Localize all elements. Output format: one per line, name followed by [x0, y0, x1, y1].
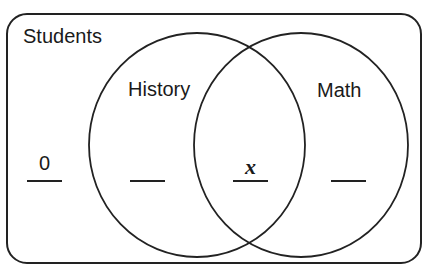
history-circle — [89, 33, 305, 257]
math-label: Math — [317, 80, 361, 100]
outside-blank — [27, 180, 62, 182]
math-circle — [194, 33, 408, 257]
universe-label: Students — [23, 26, 102, 46]
both-value: x — [233, 156, 268, 178]
outside-value: 0 — [27, 153, 62, 173]
math-only-blank — [331, 180, 366, 182]
both-blank — [233, 180, 268, 182]
history-only-blank — [130, 180, 165, 182]
history-label: History — [128, 79, 190, 99]
